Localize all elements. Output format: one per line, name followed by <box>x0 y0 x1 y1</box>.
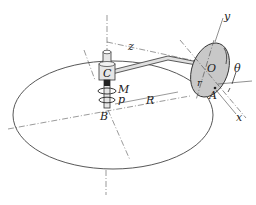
z-axis-line <box>107 42 200 62</box>
y-axis-ext <box>215 18 223 42</box>
lower-diagonal-line <box>108 110 130 160</box>
theta-arrow <box>228 72 236 92</box>
shaft-top-cap <box>103 50 111 54</box>
point-o-label: O <box>207 62 216 75</box>
x-axis-label: x <box>236 111 243 124</box>
diagram-canvas: z R y O r A x θ C M p B <box>0 0 256 205</box>
shaft-dark-band <box>104 80 110 86</box>
c-tilt-line <box>84 50 95 80</box>
theta-label: θ <box>234 62 241 75</box>
angular-rate-label: p <box>118 93 125 106</box>
collar-top <box>99 62 115 67</box>
z-axis-label: z <box>127 40 134 53</box>
x-axis-line <box>216 90 236 114</box>
point-c-label: C <box>103 67 112 80</box>
y-axis-label: y <box>223 10 231 23</box>
point-a-label: A <box>208 89 217 102</box>
point-b-label: B <box>99 110 108 123</box>
r-large-label: R <box>145 94 154 107</box>
